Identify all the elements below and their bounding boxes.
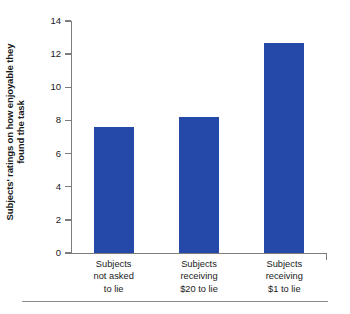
y-axis-tick-label: 8 [56,116,61,126]
bottom-divider [22,301,328,302]
y-axis-tick: 10 [65,87,71,88]
y-axis-tick: 14 [65,20,71,21]
y-axis-tick: 8 [65,120,71,121]
bar-chart: Subjects' ratings on how enjoyable they … [0,0,350,314]
x-axis-category-labels: Subjectsnot askedto lieSubjectsreceiving… [71,258,327,300]
y-axis-tick-label: 0 [56,248,61,258]
x-axis-category-label-line: $20 to lie [156,283,241,295]
y-axis-tick: 6 [65,153,71,154]
y-axis-tick: 12 [65,53,71,54]
x-axis-category-label-line: Subjects [242,258,327,270]
x-axis-category-label-line: $1 to lie [242,283,327,295]
y-axis-tick-label: 14 [50,16,61,26]
bar [179,117,219,253]
y-axis-tick-label: 4 [56,182,61,192]
plot-area: 02468101214 [71,21,327,253]
x-axis-line [71,253,327,254]
y-axis-title: Subjects' ratings on how enjoyable they … [0,11,30,253]
y-axis-title-line-1: Subjects' ratings on how enjoyable they [4,44,16,221]
y-axis-tick: 4 [65,186,71,187]
y-axis-tick: 2 [65,219,71,220]
y-axis-tick: 0 [65,252,71,253]
x-axis-category-label-line: to lie [71,283,156,295]
x-axis-category-label-line: receiving [156,270,241,282]
y-axis-tick-label: 12 [50,49,61,59]
y-axis-tick-label: 10 [50,83,61,93]
y-axis-tick-label: 2 [56,215,61,225]
x-axis-category-label-line: Subjects [71,258,156,270]
x-axis-category-label: Subjectsreceiving$20 to lie [156,258,241,295]
y-axis-line [71,21,72,253]
bar [94,127,134,253]
x-axis-category-label-line: receiving [242,270,327,282]
x-axis-category-label-line: not asked [71,270,156,282]
x-axis-category-label-line: Subjects [156,258,241,270]
bar [264,43,304,253]
y-axis-tick-label: 6 [56,149,61,159]
x-axis-category-label: Subjectsnot askedto lie [71,258,156,295]
x-axis-category-label: Subjectsreceiving$1 to lie [242,258,327,295]
y-axis-title-line-2: found the task [15,44,27,221]
